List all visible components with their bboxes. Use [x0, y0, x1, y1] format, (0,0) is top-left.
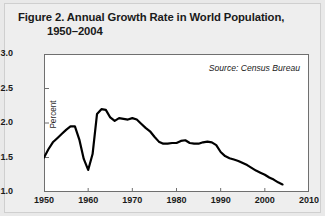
- y-axis-tick-label: 1.0: [0, 186, 13, 196]
- line-chart-canvas: [44, 54, 309, 192]
- y-axis-tick-label: 2.0: [0, 117, 13, 127]
- x-axis-tick-label: 1970: [110, 195, 154, 205]
- x-axis-tick-label: 1950: [22, 195, 66, 205]
- x-axis-tick-label: 1960: [66, 195, 110, 205]
- x-axis-tick-label: 2000: [243, 195, 287, 205]
- x-axis-tick-label: 1990: [199, 195, 243, 205]
- figure-title-line-1: Figure 2. Annual Growth Rate in World Po…: [18, 11, 308, 25]
- figure-inner-panel: Figure 2. Annual Growth Rate in World Po…: [4, 3, 321, 213]
- plot-wrapper: Percent Source: Census Bureau: [44, 54, 309, 192]
- x-axis-tick-label: 1980: [155, 195, 199, 205]
- y-axis-tick-label: 1.5: [0, 152, 13, 162]
- y-axis-tick-label: 3.0: [0, 48, 13, 58]
- y-axis-tick-label: 2.5: [0, 83, 13, 93]
- y-axis-title: Percent: [49, 85, 58, 145]
- x-axis-tick-label: 2010: [287, 195, 325, 205]
- source-annotation: Source: Census Bureau: [209, 63, 300, 73]
- figure-title-line-2: 1950–2004: [18, 25, 308, 39]
- figure-title: Figure 2. Annual Growth Rate in World Po…: [18, 11, 308, 38]
- figure-container: Figure 2. Annual Growth Rate in World Po…: [0, 0, 325, 216]
- x-axis-ticks: [44, 188, 309, 192]
- data-series-line: [44, 109, 283, 184]
